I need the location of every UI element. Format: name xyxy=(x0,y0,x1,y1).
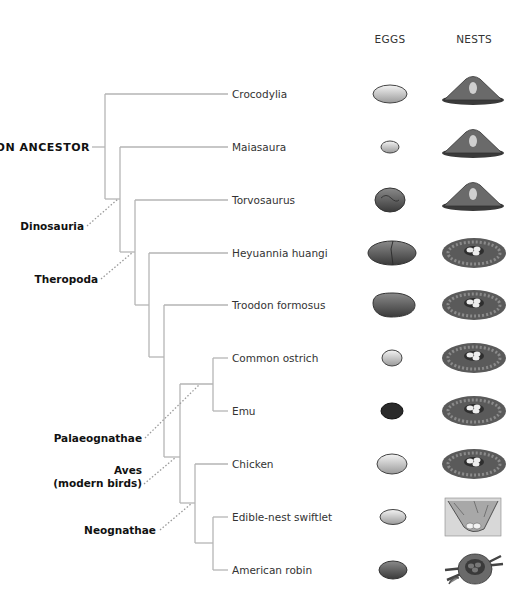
taxon-label: Emu xyxy=(232,405,256,417)
phylogeny-figure: EGGS NESTS xyxy=(0,0,530,610)
egg-icon-troodon xyxy=(367,291,417,319)
nest-icon-open-bowl xyxy=(440,235,508,271)
taxon-label: Chicken xyxy=(232,458,274,470)
egg-icon-emu xyxy=(379,401,405,421)
nest-icon-open-bowl xyxy=(440,446,508,482)
egg-icon-ostrich xyxy=(380,348,404,368)
taxon-label: American robin xyxy=(232,564,312,576)
clade-label-palaeognathae: Palaeognathae xyxy=(54,432,142,445)
clade-label-aves: Aves (modern birds) xyxy=(53,464,142,490)
egg-icon-robin xyxy=(377,559,409,581)
egg-icon-chicken xyxy=(375,452,409,476)
egg-icon-crocodylia xyxy=(371,83,409,105)
nest-icon-cliff-cup xyxy=(444,497,502,537)
taxon-label: Maiasaura xyxy=(232,141,286,153)
nest-icon-open-bowl xyxy=(440,393,508,429)
taxon-label: Torvosaurus xyxy=(232,194,295,206)
egg-icon-heyuannia xyxy=(366,239,418,267)
clade-label-neognathae: Neognathae xyxy=(84,524,156,537)
aves-title: Aves xyxy=(53,464,142,477)
taxon-label: Common ostrich xyxy=(232,352,318,364)
nest-icon-mound xyxy=(440,73,506,107)
clade-label-theropoda: Theropoda xyxy=(35,273,98,286)
taxon-label: Crocodylia xyxy=(232,88,287,100)
egg-icon-torvosaurus xyxy=(373,186,407,214)
tree-branches xyxy=(92,94,228,570)
nest-icon-mound xyxy=(440,179,506,213)
nest-icon-open-bowl xyxy=(440,287,508,323)
taxon-label: Heyuannia huangi xyxy=(232,247,328,259)
aves-subtitle: (modern birds) xyxy=(53,477,142,490)
nest-icon-mound xyxy=(440,126,506,160)
taxon-label: Troodon formosus xyxy=(232,299,325,311)
clade-label-dinosauria: Dinosauria xyxy=(20,220,84,233)
nest-icon-twig-cup xyxy=(443,550,505,590)
egg-icon-maiasaura xyxy=(379,139,401,155)
nest-icon-open-bowl xyxy=(440,340,508,376)
common-ancestor-label: COMMON ANCESTOR xyxy=(0,141,90,154)
taxon-label: Edible-nest swiftlet xyxy=(232,511,332,523)
egg-icon-swiftlet xyxy=(378,507,408,527)
